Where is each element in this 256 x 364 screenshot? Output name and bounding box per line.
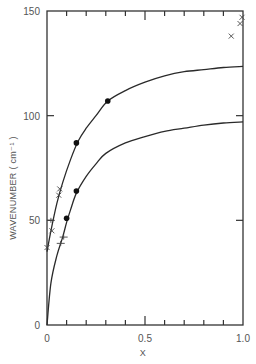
x-axis-label: X — [140, 348, 146, 358]
data-point-plus — [60, 235, 68, 240]
x-tick-label: 0.5 — [138, 333, 152, 344]
data-point-cross — [229, 34, 234, 39]
data-point-cross — [238, 21, 243, 26]
x-tick-label: 1.0 — [236, 333, 250, 344]
y-tick-label: 100 — [23, 111, 40, 122]
upper-fit-curve — [47, 66, 243, 251]
y-tick-label: 50 — [29, 215, 41, 226]
data-point-plus — [57, 241, 65, 246]
y-tick-label: 150 — [23, 6, 40, 17]
data-point-dot — [74, 188, 80, 194]
data-point-cross — [240, 15, 245, 20]
data-point-dot — [74, 140, 80, 146]
y-axis-label: WAVENUMBER ( cm⁻¹ ) — [8, 136, 18, 240]
x-tick-label: 0 — [44, 333, 50, 344]
lower-fit-curve — [47, 122, 243, 325]
y-tick-label: 0 — [34, 320, 40, 331]
plot-axes — [47, 11, 243, 325]
chart: 05010015000.51.0XWAVENUMBER ( cm⁻¹ ) — [0, 0, 256, 364]
plot-frame — [47, 11, 243, 325]
data-markers — [45, 15, 245, 250]
data-point-dot — [64, 215, 70, 221]
data-point-dot — [105, 98, 111, 104]
axis-labels: 05010015000.51.0XWAVENUMBER ( cm⁻¹ ) — [8, 6, 250, 358]
fit-curves — [47, 66, 243, 325]
